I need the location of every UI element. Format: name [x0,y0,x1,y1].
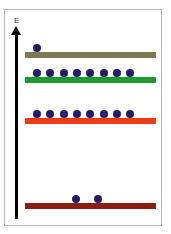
electron-dot [86,69,94,77]
electron-dot [73,110,81,118]
electron-dot [46,69,54,77]
electron-dot [94,195,102,203]
energy-axis-label: E [14,16,19,25]
level-top-bar [25,52,156,58]
electron-dot [33,110,41,118]
electron-dot [113,69,121,77]
level-green-bar [25,77,156,83]
electron-dot [100,110,108,118]
electron-dot [126,69,134,77]
electron-dot [126,110,134,118]
electron-dot [73,69,81,77]
level-bottom-bar [25,203,156,209]
electron-dot [113,110,121,118]
electron-dot [86,110,94,118]
level-orange-bar [25,118,156,124]
electron-dot [72,195,80,203]
electron-dot [33,69,41,77]
electron-dot [60,69,68,77]
energy-axis [15,34,18,219]
electron-dot [100,69,108,77]
electron-dot [33,44,41,52]
electron-dot [46,110,54,118]
electron-dot [60,110,68,118]
